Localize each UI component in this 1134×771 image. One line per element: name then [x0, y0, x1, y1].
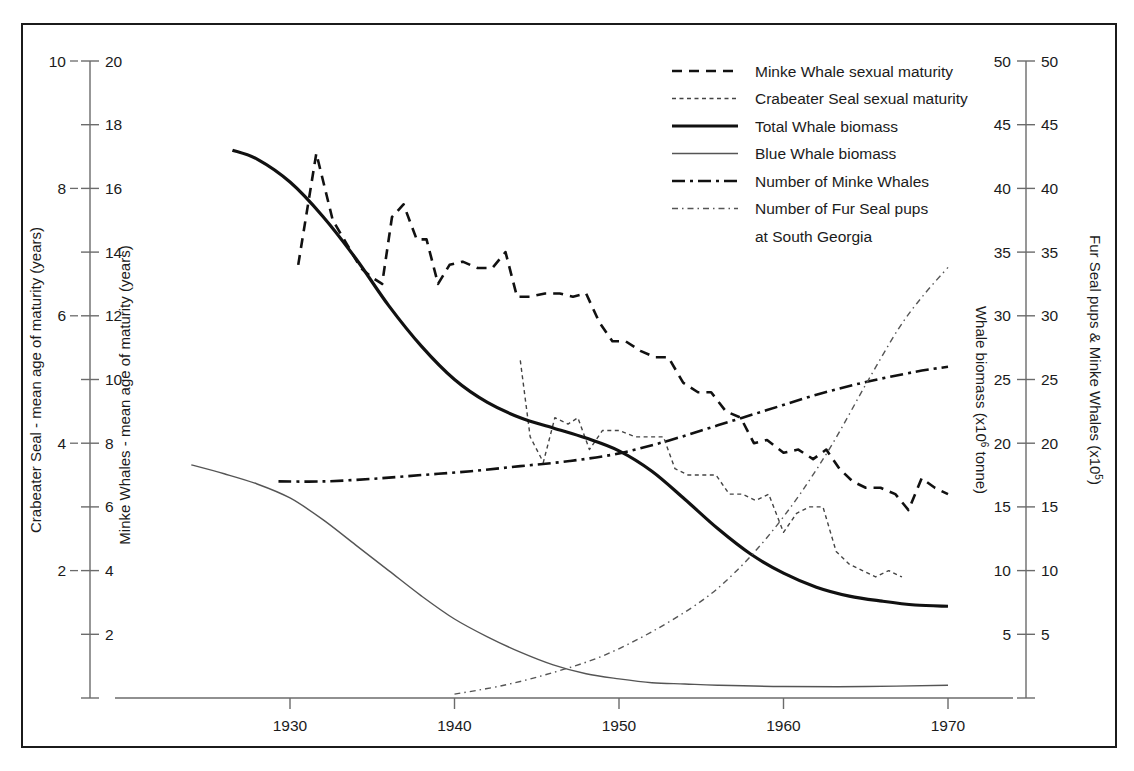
y-left-inner-axis-title: Minke Whales - mean age of maturity (yea… [116, 245, 133, 544]
legend-label: Crabeater Seal sexual maturity [755, 90, 968, 107]
y-right-inner-tick-label: 45 [994, 116, 1011, 133]
y-right-outer-tick-label: 20 [1041, 435, 1059, 452]
chart-svg: 2468101214161820246810551010151520202525… [0, 0, 1134, 771]
legend-label: Minke Whale sexual maturity [755, 63, 953, 80]
y-left-outer-tick-label: 4 [57, 435, 66, 452]
y-right-outer-tick-label: 15 [1041, 498, 1058, 515]
series-line [191, 465, 948, 687]
x-axis-tick-label: 1970 [931, 717, 966, 734]
y-left-outer-tick-label: 2 [57, 562, 66, 579]
legend-label: Number of Minke Whales [755, 173, 929, 190]
y-left-inner-tick-label: 6 [105, 498, 114, 515]
y-left-outer-tick-label: 8 [57, 180, 66, 197]
y-right-inner-tick-label: 10 [994, 562, 1012, 579]
x-axis-tick-label: 1930 [273, 717, 308, 734]
y-left-inner-tick-label: 8 [105, 435, 114, 452]
y-left-inner-tick-label: 18 [105, 116, 122, 133]
legend-label: Blue Whale biomass [755, 145, 897, 162]
series-line [232, 150, 948, 606]
x-axis-tick-label: 1940 [437, 717, 472, 734]
chart-page: 2468101214161820246810551010151520202525… [0, 0, 1134, 771]
y-left-outer-tick-label: 10 [49, 53, 67, 70]
y-right-outer-tick-label: 30 [1041, 307, 1059, 324]
legend-label: Total Whale biomass [755, 118, 898, 135]
legend-label: Number of Fur Seal pups [755, 200, 928, 217]
y-left-inner-tick-label: 16 [105, 180, 122, 197]
y-left-outer-axis-title: Crabeater Seal - mean age of maturity (y… [27, 227, 44, 533]
legend-label: at South Georgia [755, 228, 873, 245]
y-right-outer-tick-label: 5 [1041, 626, 1050, 643]
y-right-inner-tick-label: 15 [994, 498, 1011, 515]
y-left-inner-tick-label: 20 [105, 53, 123, 70]
y-right-inner-tick-label: 30 [994, 307, 1012, 324]
y-right-inner-tick-label: 40 [994, 180, 1012, 197]
y-right-outer-tick-label: 45 [1041, 116, 1058, 133]
y-left-inner-tick-label: 4 [105, 562, 114, 579]
y-right-outer-tick-label: 40 [1041, 180, 1059, 197]
y-right-inner-tick-label: 50 [994, 53, 1012, 70]
series-line [455, 267, 949, 694]
y-left-inner-tick-label: 2 [105, 626, 114, 643]
y-right-inner-tick-label: 25 [994, 371, 1011, 388]
y-right-inner-tick-label: 35 [994, 244, 1011, 261]
y-right-outer-axis-title: Fur Seal pups & Minke Whales (x105) [1087, 235, 1104, 485]
y-right-inner-tick-label: 20 [994, 435, 1012, 452]
x-axis-tick-label: 1960 [766, 717, 801, 734]
series-line [278, 367, 948, 482]
y-right-outer-tick-label: 10 [1041, 562, 1059, 579]
y-right-outer-tick-label: 25 [1041, 371, 1058, 388]
x-axis-tick-label: 1950 [602, 717, 637, 734]
y-right-inner-axis-title: Whale biomass (x106 tonne) [973, 306, 990, 494]
y-left-outer-tick-label: 6 [57, 307, 66, 324]
y-right-outer-tick-label: 50 [1041, 53, 1059, 70]
y-right-outer-tick-label: 35 [1041, 244, 1058, 261]
y-right-inner-tick-label: 5 [1002, 626, 1011, 643]
